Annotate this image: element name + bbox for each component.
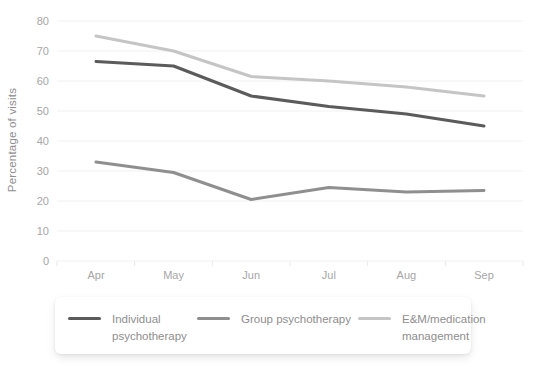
y-tick-label: 60: [37, 75, 49, 87]
y-tick-label: 50: [37, 105, 49, 117]
legend-label: Individual psychotherapy: [112, 311, 206, 345]
legend-swatch: [197, 317, 230, 320]
legend-swatch: [358, 317, 391, 320]
x-tick-label: May: [163, 269, 184, 281]
y-tick-label: 70: [37, 45, 49, 57]
legend-item: Individual psychotherapy: [68, 311, 206, 345]
chart-legend: Individual psychotherapyGroup psychother…: [55, 297, 471, 354]
legend-item: Group psychotherapy: [197, 311, 351, 328]
x-tick-label: Aug: [397, 269, 417, 281]
series-line-individual-psychotherapy: [96, 62, 484, 127]
visits-line-chart: 01020304050607080AprMayJunJulAugSep Perc…: [0, 0, 535, 367]
y-tick-label: 40: [37, 135, 49, 147]
y-axis-title: Percentage of visits: [6, 60, 20, 220]
x-tick-label: Jul: [322, 269, 336, 281]
y-tick-label: 80: [37, 15, 49, 27]
legend-label: E&M/medication management: [402, 311, 516, 345]
x-tick-label: Sep: [474, 269, 494, 281]
y-tick-label: 0: [43, 255, 49, 267]
x-tick-label: Apr: [87, 269, 104, 281]
x-tick-label: Jun: [242, 269, 260, 281]
y-tick-label: 10: [37, 225, 49, 237]
y-tick-label: 20: [37, 195, 49, 207]
y-tick-label: 30: [37, 165, 49, 177]
legend-label: Group psychotherapy: [241, 311, 351, 328]
legend-swatch: [68, 317, 101, 320]
series-line-group-psychotherapy: [96, 162, 484, 200]
plot-area: 01020304050607080AprMayJunJulAugSep: [0, 0, 535, 292]
legend-item: E&M/medication management: [358, 311, 516, 345]
